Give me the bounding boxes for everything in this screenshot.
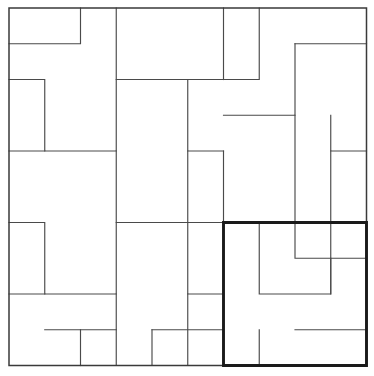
tile-edge-6 (188, 80, 224, 152)
tile-edge-15 (188, 223, 224, 295)
tiling-diagram (0, 0, 374, 376)
tile-edge-14 (9, 223, 116, 295)
tile-edge-1 (116, 8, 188, 80)
tile-edge-5 (9, 80, 116, 152)
interior-tile-edges (9, 8, 367, 366)
tile-edge-10 (116, 151, 188, 223)
tile-edge-13 (331, 151, 367, 223)
tile-edge-0 (9, 8, 81, 44)
tile-edge-8 (331, 115, 367, 151)
figure-root (0, 0, 374, 376)
